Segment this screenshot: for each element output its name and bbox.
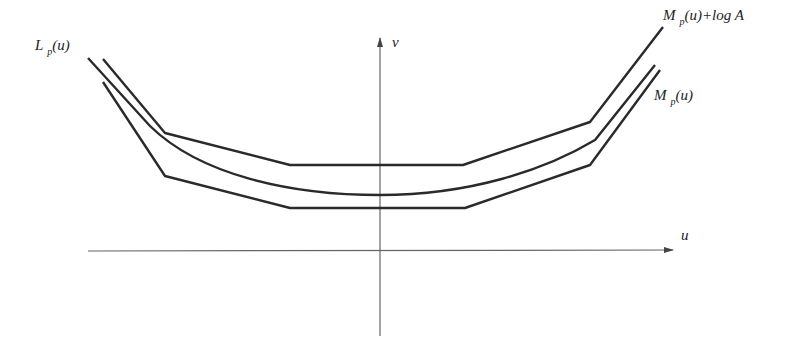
u-axis-label: u bbox=[681, 227, 689, 243]
v-axis-label: v bbox=[392, 34, 399, 50]
curve-mp-plus-logA bbox=[103, 27, 663, 165]
diagram-canvas: v u Lp(u) Mp(u)+log A Mp(u) bbox=[0, 0, 804, 349]
label-mp: Mp(u) bbox=[653, 87, 693, 107]
curve-lp bbox=[88, 58, 655, 195]
label-mp-plus-logA: Mp(u)+log A bbox=[662, 7, 745, 27]
label-lp: Lp(u) bbox=[34, 37, 70, 57]
